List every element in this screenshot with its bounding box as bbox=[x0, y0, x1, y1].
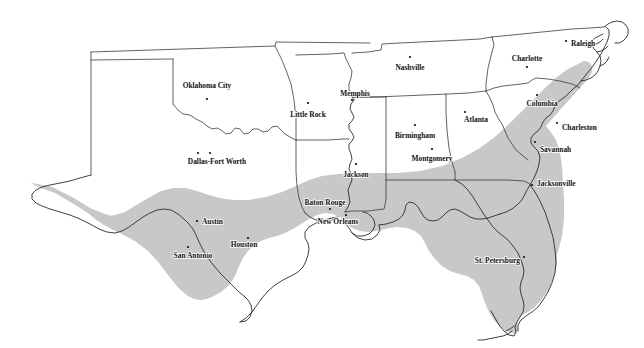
city-label: Savannah bbox=[540, 145, 571, 154]
city-dot bbox=[556, 122, 558, 124]
boundary-tennessee-south bbox=[352, 91, 486, 97]
city-label: Jackson bbox=[343, 170, 368, 179]
city-dot bbox=[351, 99, 353, 101]
city-label: Birmingham bbox=[395, 131, 436, 140]
city-label: San Antonio bbox=[174, 251, 213, 260]
city-dot bbox=[431, 148, 433, 150]
city-marker[interactable]: Birmingham bbox=[395, 124, 436, 140]
city-label: Houston bbox=[231, 240, 258, 249]
city-label: Nashville bbox=[395, 63, 425, 72]
city-marker[interactable]: Jackson bbox=[343, 163, 368, 179]
city-dot bbox=[329, 208, 331, 210]
city-marker[interactable]: Oklahoma City bbox=[183, 81, 232, 100]
city-dot bbox=[534, 141, 536, 143]
city-dot bbox=[414, 124, 416, 126]
boundary-north-carolina-north bbox=[492, 27, 604, 37]
city-marker[interactable]: Atlanta bbox=[464, 111, 488, 124]
city-dot bbox=[345, 214, 347, 216]
city-dot bbox=[197, 152, 199, 154]
city-dot bbox=[196, 220, 198, 222]
city-marker[interactable]: Montgomery bbox=[411, 148, 452, 163]
boundary-tennessee-east bbox=[486, 37, 494, 91]
city-label: St. Petersburg bbox=[475, 256, 520, 265]
city-dot bbox=[523, 256, 525, 258]
map-figure: Oklahoma CityLittle RockDallas-Fort Wort… bbox=[0, 0, 644, 348]
city-marker[interactable]: Memphis bbox=[340, 89, 370, 101]
boundary-arkansas-louisiana bbox=[296, 139, 349, 140]
boundary-tennessee-north bbox=[352, 37, 492, 53]
city-dot bbox=[307, 102, 309, 104]
city-label: Dallas-Fort Worth bbox=[188, 157, 246, 166]
city-dot bbox=[464, 111, 466, 113]
city-marker[interactable]: Little Rock bbox=[290, 102, 326, 119]
city-label: New Orleans bbox=[318, 217, 359, 226]
city-label: Columbia bbox=[526, 99, 558, 108]
map-canvas: Oklahoma CityLittle RockDallas-Fort Wort… bbox=[0, 0, 644, 348]
city-label: Oklahoma City bbox=[183, 81, 232, 90]
city-dot bbox=[526, 66, 528, 68]
city-dot bbox=[409, 56, 411, 58]
city-marker[interactable]: Jacksonville bbox=[531, 179, 576, 188]
boundary-oklahoma-panhandle-south bbox=[91, 59, 173, 60]
boundary-red-river bbox=[173, 104, 296, 140]
city-dot bbox=[187, 246, 189, 248]
city-label: Baton Rouge bbox=[305, 198, 347, 207]
city-dot bbox=[531, 184, 533, 186]
boundary-oklahoma-north bbox=[91, 42, 370, 52]
city-label: Austin bbox=[202, 217, 223, 226]
city-marker[interactable]: Charlotte bbox=[512, 54, 543, 68]
city-dot bbox=[247, 237, 249, 239]
city-dot bbox=[536, 94, 538, 96]
city-marker[interactable]: Charleston bbox=[556, 122, 597, 132]
shaded-texas-gulf bbox=[31, 179, 316, 300]
city-label: Montgomery bbox=[411, 154, 452, 163]
city-label: Charleston bbox=[562, 123, 597, 132]
city-label: Memphis bbox=[340, 89, 370, 98]
city-label: Little Rock bbox=[290, 110, 326, 119]
boundary-oklahoma-east bbox=[275, 46, 296, 140]
city-dot bbox=[565, 40, 567, 42]
city-dot bbox=[206, 98, 208, 100]
city-marker[interactable]: Raleigh bbox=[565, 39, 595, 48]
city-label: Charlotte bbox=[512, 54, 543, 63]
city-marker[interactable]: Nashville bbox=[395, 56, 425, 72]
city-label: Atlanta bbox=[464, 115, 488, 124]
city-marker[interactable]: St. Petersburg bbox=[475, 256, 525, 265]
city-label: Jacksonville bbox=[537, 179, 576, 188]
city-dot bbox=[209, 152, 211, 154]
city-dot bbox=[355, 163, 357, 165]
city-label: Raleigh bbox=[571, 39, 595, 48]
city-marker[interactable]: Dallas-Fort Worth bbox=[188, 152, 246, 166]
